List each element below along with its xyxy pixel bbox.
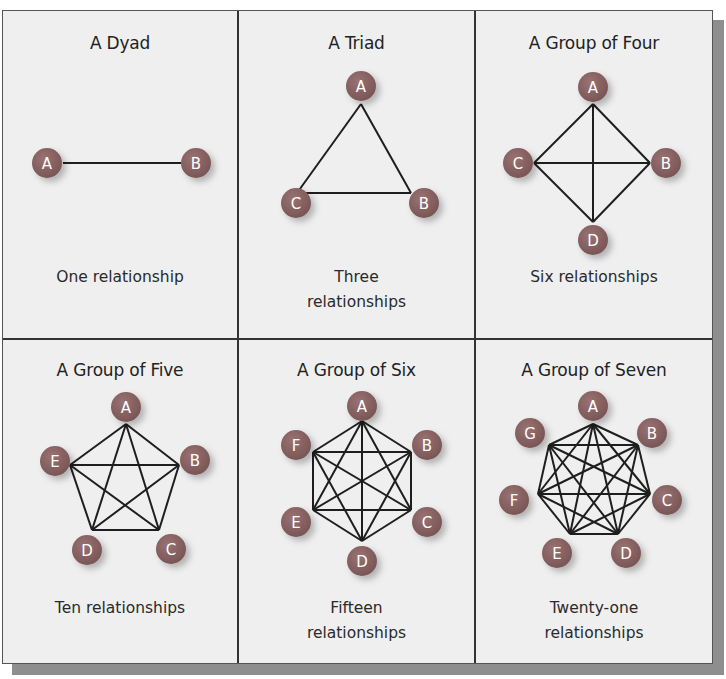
relationship-edge xyxy=(313,421,362,452)
svg-text:C: C xyxy=(291,195,301,213)
svg-text:A: A xyxy=(357,398,368,416)
svg-text:A: A xyxy=(121,399,132,417)
member-node-b: B xyxy=(409,188,439,218)
relationship-edge xyxy=(92,424,126,530)
svg-text:E: E xyxy=(552,545,561,563)
member-node-d: D xyxy=(611,538,641,568)
member-node-c: C xyxy=(156,534,186,564)
cell-group-of-six: A Group of Six ABCDEF Fifteen relationsh… xyxy=(239,340,474,663)
member-node-d: D xyxy=(72,535,102,565)
relationship-edge xyxy=(362,510,411,541)
caption-line: Six relationships xyxy=(476,265,712,290)
relationship-edge xyxy=(70,465,159,530)
member-node-e: E xyxy=(281,507,311,537)
relationship-edge xyxy=(70,465,92,530)
caption-line: relationships xyxy=(239,621,474,646)
svg-text:A: A xyxy=(588,398,599,416)
cell-group-of-four: A Group of Four ABCD Six relationships xyxy=(476,11,712,338)
relationship-edge xyxy=(297,104,361,193)
caption-line: Fifteen xyxy=(239,596,474,621)
cell-group-of-five: A Group of Five ABCDE Ten relationships xyxy=(3,340,237,663)
relationship-edge xyxy=(313,510,362,541)
svg-text:C: C xyxy=(166,541,176,559)
relationship-edge xyxy=(593,104,650,163)
member-node-c: C xyxy=(503,148,533,178)
svg-text:D: D xyxy=(81,542,93,560)
svg-text:A: A xyxy=(42,155,53,173)
cell-caption: Ten relationships xyxy=(3,596,237,621)
cell-dyad: A Dyad AB One relationship xyxy=(3,11,237,338)
member-node-a: A xyxy=(32,148,62,178)
member-node-b: B xyxy=(181,148,211,178)
relationship-edge xyxy=(534,104,593,163)
svg-text:B: B xyxy=(190,452,200,470)
svg-text:C: C xyxy=(662,492,672,510)
relationship-edge xyxy=(361,104,411,193)
svg-text:F: F xyxy=(292,437,301,455)
caption-line: Twenty-one xyxy=(476,596,712,621)
svg-text:E: E xyxy=(50,453,59,471)
cell-caption: Twenty-one relationships xyxy=(476,596,712,646)
svg-text:D: D xyxy=(620,545,632,563)
svg-text:B: B xyxy=(191,155,201,173)
member-node-a: A xyxy=(111,392,141,422)
member-node-a: A xyxy=(578,72,608,102)
svg-text:A: A xyxy=(588,79,599,97)
member-node-d: D xyxy=(347,546,377,576)
member-node-g: G xyxy=(515,418,545,448)
svg-text:G: G xyxy=(524,425,536,443)
member-node-c: C xyxy=(281,188,311,218)
cell-group-of-seven: A Group of Seven ABCDEFG Twenty-one rela… xyxy=(476,340,712,663)
caption-line: Ten relationships xyxy=(3,596,237,621)
svg-text:C: C xyxy=(513,155,523,173)
member-node-a: A xyxy=(347,391,377,421)
cell-caption: Six relationships xyxy=(476,265,712,290)
member-node-b: B xyxy=(180,445,210,475)
member-node-f: F xyxy=(281,430,311,460)
caption-line: One relationship xyxy=(3,265,237,290)
svg-text:E: E xyxy=(291,514,300,532)
member-node-c: C xyxy=(652,485,682,515)
svg-text:F: F xyxy=(510,492,519,510)
cell-triad: A Triad ABC Three relationships xyxy=(239,11,474,338)
caption-line: relationships xyxy=(239,290,474,315)
relationship-edge xyxy=(534,163,593,222)
svg-text:D: D xyxy=(587,232,599,250)
cell-caption: Fifteen relationships xyxy=(239,596,474,646)
member-node-f: F xyxy=(499,485,529,515)
relationship-edge xyxy=(593,163,650,222)
relationship-edge xyxy=(126,424,179,465)
relationship-edge xyxy=(159,465,179,530)
member-node-b: B xyxy=(637,418,667,448)
member-node-a: A xyxy=(578,391,608,421)
cell-caption: One relationship xyxy=(3,265,237,290)
svg-text:B: B xyxy=(647,425,657,443)
caption-line: Three xyxy=(239,265,474,290)
cell-caption: Three relationships xyxy=(239,265,474,315)
diagram-panel: A Dyad AB One relationship A Triad ABC T… xyxy=(2,10,713,664)
relationship-edge xyxy=(549,424,593,445)
svg-text:A: A xyxy=(356,78,367,96)
member-node-b: B xyxy=(412,430,442,460)
member-node-e: E xyxy=(542,538,572,568)
svg-text:B: B xyxy=(661,155,671,173)
member-node-b: B xyxy=(651,148,681,178)
relationship-edge xyxy=(593,424,638,445)
caption-line: relationships xyxy=(476,621,712,646)
relationship-edge xyxy=(126,424,159,530)
svg-text:D: D xyxy=(356,553,368,571)
relationship-edge xyxy=(362,421,411,452)
svg-text:B: B xyxy=(422,437,432,455)
member-node-a: A xyxy=(346,71,376,101)
member-node-e: E xyxy=(40,446,70,476)
member-node-c: C xyxy=(412,507,442,537)
member-node-d: D xyxy=(578,225,608,255)
relationship-edge xyxy=(70,424,126,465)
svg-text:B: B xyxy=(419,195,429,213)
relationship-edge xyxy=(92,465,179,530)
svg-text:C: C xyxy=(422,514,432,532)
